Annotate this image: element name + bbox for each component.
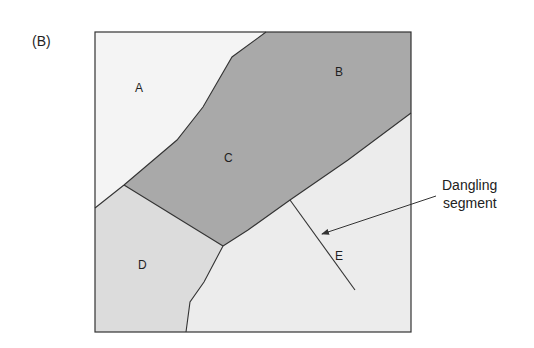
- annotation-line-2: segment: [443, 195, 497, 211]
- region-label-d: D: [138, 258, 147, 272]
- region-label-a: A: [135, 81, 143, 95]
- panel-label: (B): [32, 33, 51, 49]
- polygon-topology-diagram: (B) A B C D E Dangling segment: [0, 0, 534, 348]
- annotation-line-1: Dangling: [442, 177, 497, 193]
- region-label-b: B: [335, 65, 343, 79]
- region-label-e: E: [335, 249, 343, 263]
- region-label-c: C: [224, 151, 233, 165]
